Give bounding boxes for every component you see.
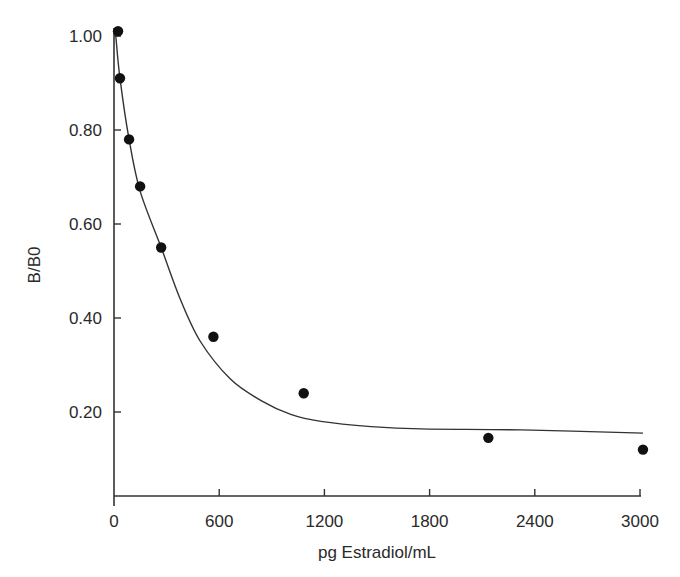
x-axis-title: pg Estradiol/mL (318, 543, 436, 562)
x-tick-label: 2400 (516, 512, 554, 531)
y-tick-label: 0.40 (69, 309, 102, 328)
data-point (135, 181, 145, 191)
data-point (483, 433, 493, 443)
data-point (638, 444, 648, 454)
data-point (299, 388, 309, 398)
chart: 0.200.400.600.801.00 0600120018002400300… (0, 0, 680, 577)
data-point (156, 242, 166, 252)
x-tick-label: 0 (109, 512, 118, 531)
y-tick-label: 1.00 (69, 27, 102, 46)
axes (114, 28, 641, 506)
fitted-curve (116, 36, 643, 433)
y-tick-label: 0.60 (69, 215, 102, 234)
y-tick-label: 0.80 (69, 121, 102, 140)
x-tick-label: 3000 (621, 512, 659, 531)
x-tick-label: 1200 (305, 512, 343, 531)
y-ticks: 0.200.400.600.801.00 (69, 27, 121, 422)
x-tick-label: 600 (205, 512, 233, 531)
x-tick-label: 1800 (411, 512, 449, 531)
y-tick-label: 0.20 (69, 403, 102, 422)
y-axis-title: B/B0 (25, 247, 44, 284)
data-point (208, 332, 218, 342)
data-point (115, 73, 125, 83)
data-points (113, 26, 648, 455)
data-point (124, 134, 134, 144)
data-point (113, 26, 123, 36)
